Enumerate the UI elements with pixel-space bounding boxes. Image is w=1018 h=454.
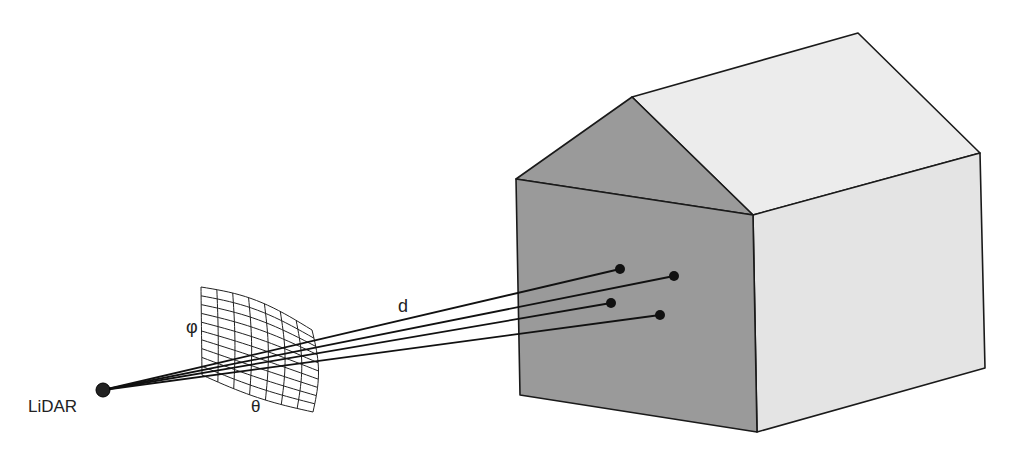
- house: [516, 33, 985, 432]
- lidar-label: LiDAR: [28, 397, 77, 416]
- scan-grid: [201, 287, 319, 412]
- hit-point: [655, 310, 665, 320]
- lidar-sensor-icon: [96, 383, 110, 397]
- hit-point: [669, 271, 679, 281]
- distance-label: d: [398, 296, 408, 316]
- hit-point: [606, 298, 616, 308]
- house-front-wall: [516, 179, 757, 432]
- azimuth-label: θ: [251, 397, 260, 416]
- elevation-label: φ: [186, 317, 198, 337]
- lidar-diagram: LiDAR d θ φ: [0, 0, 1018, 454]
- hit-point: [615, 264, 625, 274]
